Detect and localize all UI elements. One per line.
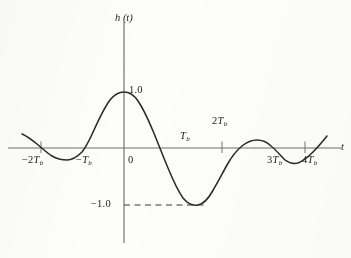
y-tick-label-minus-one: −1.0 [91, 199, 111, 210]
x-tick-label-minus-tb: −Tb [76, 155, 92, 167]
x-tick-label-minus-2tb-sub: b [40, 159, 44, 166]
x-tick-label-4tb: 4Tb [302, 155, 317, 167]
origin-label: 0 [128, 155, 133, 166]
x-tick-label-minus-2tb-symbol: T [34, 154, 40, 165]
x-tick-label-3tb: 3Tb [267, 155, 282, 167]
x-tick-label-4tb-symbol: T [307, 154, 313, 165]
y-axis-title-h: h (t) [115, 12, 133, 23]
waveform-curve [22, 92, 327, 205]
x-tick-label-2tb-sub: b [224, 120, 228, 127]
y-tick-label-one: 1.0 [129, 85, 143, 96]
x-tick-label-minus-2tb: −2Tb [22, 155, 43, 167]
x-tick-label-minus-2tb-prefix: −2 [22, 154, 34, 165]
y-axis-title: h (t) [115, 13, 133, 24]
x-tick-label-2tb: 2Tb [212, 116, 227, 128]
x-tick-label-3tb-symbol: T [272, 154, 278, 165]
waveform-plot [0, 0, 351, 258]
x-axis-title: t [341, 142, 344, 153]
x-tick-label-2tb-symbol: T [217, 115, 223, 126]
x-tick-label-minus-tb-sub: b [88, 159, 92, 166]
figure-container: h (t) t 1.0 −1.0 0 −2Tb −Tb Tb 2Tb 3Tb 4… [0, 0, 351, 258]
x-tick-label-tb: Tb [180, 131, 190, 143]
x-tick-label-3tb-sub: b [279, 159, 283, 166]
x-tick-label-4tb-sub: b [314, 159, 318, 166]
x-tick-label-tb-sub: b [186, 135, 190, 142]
x-axis-title-t: t [341, 141, 344, 152]
